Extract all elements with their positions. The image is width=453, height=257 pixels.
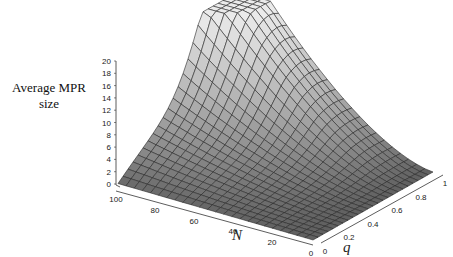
z-tick-label: 8 xyxy=(107,131,112,140)
x-tick-label: 100 xyxy=(109,195,123,204)
surface-mesh xyxy=(118,0,433,240)
x-tick-label: 20 xyxy=(268,238,277,247)
y-tick-label: 0.8 xyxy=(415,193,427,202)
y-tick-label: 1 xyxy=(443,179,448,188)
z-tick-label: 12 xyxy=(102,106,111,115)
z-tick-label: 6 xyxy=(107,143,112,152)
z-tick-label: 0 xyxy=(107,180,112,189)
z-tick-label: 4 xyxy=(107,155,112,164)
y-axis-label: q xyxy=(343,239,351,255)
z-tick-label: 14 xyxy=(102,94,111,103)
x-tick-label: 60 xyxy=(190,217,199,226)
y-tick-label: 0.4 xyxy=(367,220,379,229)
z-tick-label: 10 xyxy=(102,119,111,128)
y-tick-label: 0 xyxy=(323,247,328,256)
x-axis-label: N xyxy=(231,227,243,243)
x-tick-label: 0 xyxy=(309,249,314,257)
y-tick-label: 0.6 xyxy=(391,206,403,215)
z-tick-label: 16 xyxy=(102,82,111,91)
z-tick-label: 18 xyxy=(102,69,111,78)
z-tick-label: 2 xyxy=(107,168,112,177)
z-tick-label: 20 xyxy=(102,57,111,66)
x-tick-label: 80 xyxy=(151,206,160,215)
surface-plot: 10080604020000.20.40.60.8102468101214161… xyxy=(0,0,453,257)
